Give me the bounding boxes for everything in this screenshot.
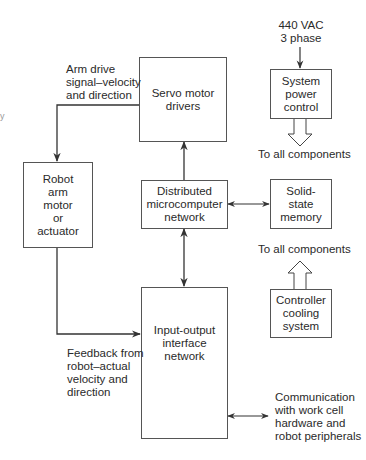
feedback-line [57, 247, 140, 334]
power-block-label: System power control [282, 75, 320, 114]
arm-drive-label: Arm drive signal–velocity and direction [66, 63, 141, 102]
controller-cooling-block: Controller cooling system [270, 289, 332, 338]
communication-label: Communication with work cell hardware an… [275, 391, 361, 443]
stray-text-fragment: y [0, 111, 5, 121]
arm-drive-line [57, 105, 139, 161]
feedback-label: Feedback from robot–actual velocity and … [67, 347, 144, 399]
distributed-microcomputer-block: Distributed microcomputer network [141, 180, 228, 229]
to-all-components-label-1: To all components [258, 148, 351, 161]
servo-motor-drivers-block: Servo motor drivers [139, 57, 227, 142]
input-output-interface-block: Input-output interface network [141, 287, 228, 439]
io-block-label: Input-output interface network [154, 324, 215, 363]
power-input-label: 440 VAC 3 phase [270, 19, 332, 45]
cooling-block-label: Controller cooling system [276, 294, 326, 333]
memory-block-label: Solid- state memory [280, 185, 322, 224]
power-output-hollow-arrow [288, 118, 312, 146]
system-power-control-block: System power control [270, 69, 332, 119]
solid-state-memory-block: Solid- state memory [270, 179, 332, 229]
to-all-components-label-2: To all components [258, 243, 351, 256]
servo-block-label: Servo motor drivers [152, 87, 215, 113]
distributed-block-label: Distributed microcomputer network [146, 185, 222, 224]
cooling-output-hollow-arrow [288, 261, 312, 289]
robot-arm-block: Robot arm motor or actuator [23, 162, 93, 248]
robot-arm-block-label: Robot arm motor or actuator [37, 173, 79, 238]
